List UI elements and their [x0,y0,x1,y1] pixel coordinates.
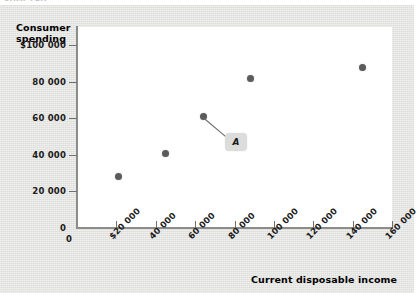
y-tick-label: 20 000 [32,186,66,196]
annotation-label: A [225,133,247,151]
y-tick-label: 80 000 [32,77,66,87]
y-tick-label: 60 000 [32,113,66,123]
y-tick-label: 40 000 [32,150,66,160]
y-tick-label: $100 000 [20,40,66,50]
cutoff-header-text: CHAPTER [3,0,47,3]
data-point [247,75,254,82]
data-point [162,150,169,157]
y-tick-mark [69,155,77,156]
x-zero-label: 0 [66,234,72,244]
y-zero-label: 0 [60,223,66,233]
y-tick-mark [69,82,77,83]
y-tick-mark [69,191,77,192]
data-point [359,64,366,71]
y-axis-title-line1: Consumer [16,22,74,33]
y-axis-line [76,26,78,229]
y-tick-mark [69,118,77,119]
y-tick-mark [69,45,77,46]
plot-area [77,27,392,228]
x-axis-title: Current disposable income [251,274,397,285]
panel-bottom-edge [0,293,414,301]
